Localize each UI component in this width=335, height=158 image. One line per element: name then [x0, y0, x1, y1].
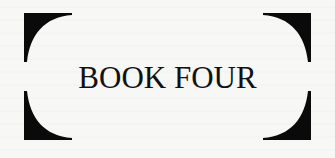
- corner-bracket-icon: [263, 91, 311, 140]
- book-title: BOOK FOUR: [0, 60, 335, 96]
- page: BOOK FOUR: [0, 0, 335, 158]
- bottom-right-corner-ornament: [263, 91, 311, 140]
- top-left-corner-ornament: [24, 13, 72, 62]
- corner-bracket-icon: [24, 91, 72, 140]
- bottom-left-corner-ornament: [24, 91, 72, 140]
- top-right-corner-ornament: [263, 13, 311, 62]
- corner-bracket-icon: [24, 13, 72, 62]
- corner-bracket-icon: [263, 13, 311, 62]
